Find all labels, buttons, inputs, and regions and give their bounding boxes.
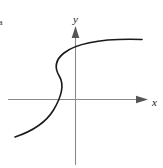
x-axis-label: x [151, 96, 157, 108]
y-axis-arrow-icon [72, 26, 80, 38]
curve-path [15, 39, 142, 137]
figure-container: y x a [0, 0, 163, 168]
graph-canvas: y x a [0, 0, 163, 168]
figure-corner-tag: a [0, 18, 3, 27]
x-axis-arrow-icon [136, 96, 148, 104]
y-axis-label: y [72, 13, 78, 25]
